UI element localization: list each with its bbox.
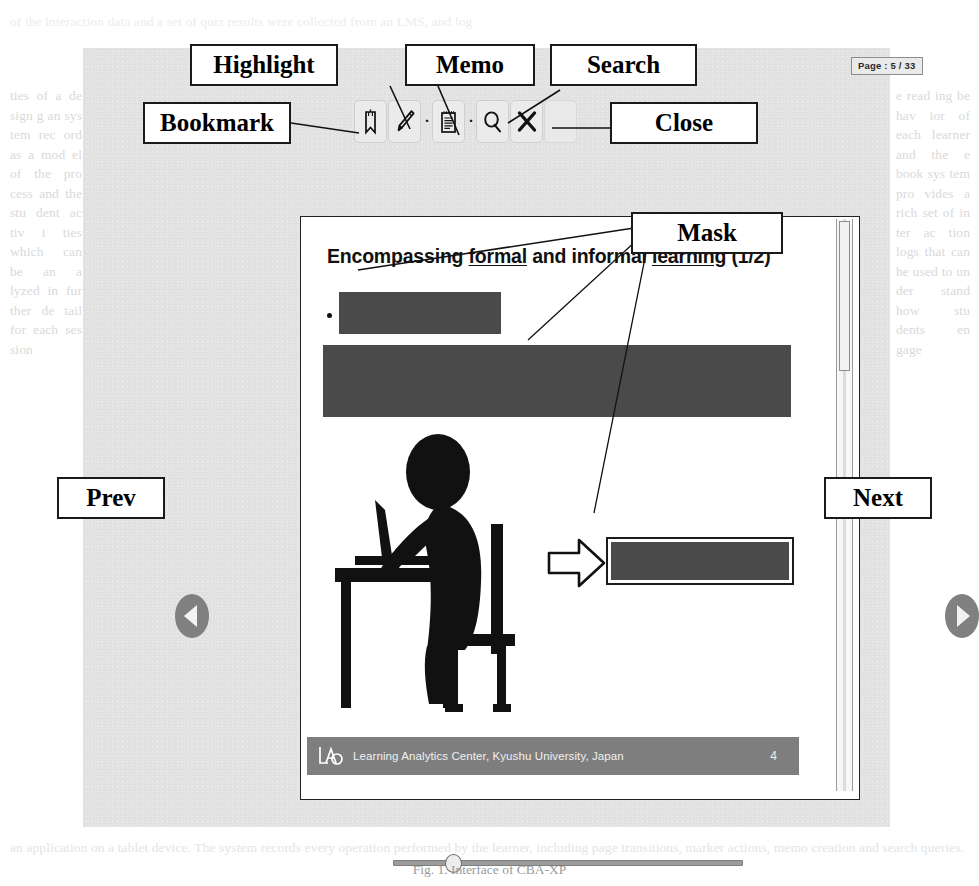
paper-page: of the interaction data and a set of qui… [0, 0, 979, 886]
student-writing-at-desk-pictogram [331, 432, 571, 722]
bookmark-button[interactable] [354, 100, 387, 143]
right-arrow-icon [546, 535, 608, 591]
toolbar: · · [354, 100, 577, 143]
triangle-right-icon [957, 605, 970, 627]
mask-region[interactable] [323, 345, 791, 417]
callout-prev[interactable]: Prev [57, 477, 165, 519]
callout-mask: Mask [631, 212, 783, 254]
triangle-left-icon [184, 605, 197, 627]
search-button[interactable] [476, 100, 509, 143]
bookmark-icon [363, 109, 378, 135]
mask-region[interactable] [339, 292, 501, 334]
callout-close: Close [610, 102, 758, 144]
slide-number: 4 [770, 749, 777, 763]
pencil-highlight-icon [394, 109, 416, 135]
scrollbar-thumb[interactable] [839, 221, 850, 371]
mask-region[interactable] [611, 542, 789, 580]
ghost-paper-text-right: e read ing be hav ior of each learner an… [896, 86, 970, 359]
highlight-button[interactable] [388, 100, 421, 143]
close-x-icon [515, 109, 539, 135]
slide-footer: Learning Analytics Center, Kyushu Univer… [307, 737, 799, 775]
callout-memo: Memo [405, 44, 535, 86]
slide-bullet [327, 313, 332, 318]
highlight-dropdown-dot[interactable]: · [422, 101, 432, 142]
slide-footer-text: Learning Analytics Center, Kyushu Univer… [353, 750, 624, 762]
ghost-paper-text-top: of the interaction data and a set of qui… [10, 12, 970, 32]
page-indicator: Page : 5 / 33 [851, 57, 923, 75]
callout-next[interactable]: Next [824, 477, 932, 519]
ebook-reader-window: Page : 5 / 33 · [83, 48, 890, 827]
memo-button[interactable] [432, 100, 465, 143]
notepad-memo-icon [439, 109, 458, 135]
slide-viewer[interactable]: Encompassing formal and informal learnin… [300, 216, 860, 800]
callout-highlight: Highlight [190, 44, 338, 86]
prev-page-button[interactable] [175, 594, 209, 638]
toolbar-empty-slot [544, 100, 577, 143]
ghost-paper-text-left: ties of a de sign g an sys tem rec ord a… [10, 86, 82, 359]
callout-search: Search [550, 44, 697, 86]
lac-logo-icon [307, 737, 353, 775]
callout-bookmark: Bookmark [143, 102, 291, 144]
memo-dropdown-dot[interactable]: · [466, 101, 476, 142]
close-button[interactable] [510, 100, 543, 143]
next-page-button[interactable] [945, 594, 979, 638]
slide-canvas: Encompassing formal and informal learnin… [301, 217, 825, 793]
magnifier-search-icon [482, 109, 504, 135]
figure-caption: Fig. 1. Interface of CBA-XP [0, 862, 979, 878]
